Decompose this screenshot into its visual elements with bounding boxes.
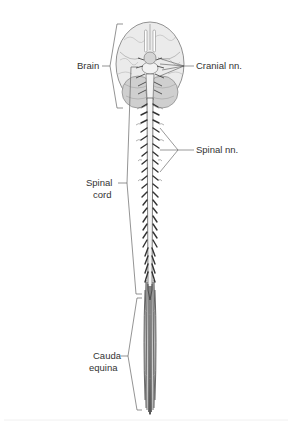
cranial-nerves-label: Cranial nn. bbox=[196, 60, 242, 71]
spinal-nerves-label: Spinal nn. bbox=[196, 144, 238, 155]
brain-label: Brain bbox=[77, 60, 99, 71]
spinal-cord-label-line2: cord bbox=[93, 189, 111, 200]
cauda-equina-label-line2: equina bbox=[89, 362, 118, 373]
nervous-system-illustration bbox=[0, 0, 292, 431]
cauda-equina-illustration bbox=[144, 280, 156, 415]
spinal-cord-label-line1: Spinal bbox=[86, 177, 112, 188]
spinal-cord-illustration bbox=[136, 98, 164, 300]
cauda-equina-label-line1: Cauda bbox=[93, 350, 121, 361]
spinal-nerves-pointer bbox=[160, 128, 194, 172]
cauda-equina-bracket bbox=[121, 298, 142, 410]
